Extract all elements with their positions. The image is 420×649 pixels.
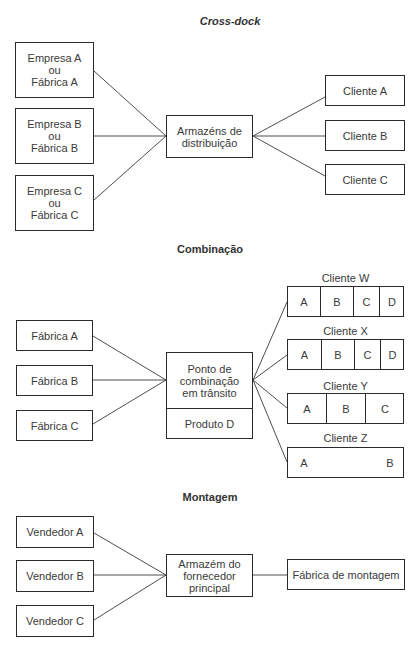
- label: ou: [27, 130, 81, 142]
- source-empresa-a: Empresa AouFábrica A: [15, 42, 94, 98]
- label: combinação: [180, 375, 239, 387]
- cell: A: [294, 448, 314, 477]
- section-title-cross-dock: Cross-dock: [180, 15, 280, 27]
- client-z-shipment: A B: [287, 447, 404, 478]
- cell: D: [380, 287, 404, 316]
- section-title-montagem: Montagem: [160, 491, 260, 503]
- label: Empresa B: [27, 118, 81, 130]
- label: Empresa C: [27, 185, 82, 197]
- cell: C: [354, 287, 380, 316]
- hub-ponto-combinacao: Ponto decombinaçãoem trânsito Produto D: [166, 352, 253, 439]
- label: Cliente B: [343, 130, 388, 142]
- label: Cliente C: [342, 174, 387, 186]
- source-fabrica-b: Fábrica B: [16, 365, 93, 396]
- source-empresa-c: Empresa CouFábrica C: [15, 175, 94, 231]
- client-x-shipment: A B C D: [287, 339, 404, 370]
- hub-armazens-distribuicao: Armazéns dedistribuição: [166, 115, 253, 158]
- label: Fábrica B: [31, 375, 78, 387]
- section-title-combinacao: Combinação: [160, 243, 260, 255]
- label: distribuição: [177, 137, 242, 149]
- source-vendedor-c: Vendedor C: [16, 605, 94, 637]
- label: ou: [27, 197, 82, 209]
- label: ou: [28, 64, 82, 76]
- hub-armazem-fornecedor: Armazém dofornecedorprincipal: [166, 554, 253, 597]
- cell: A: [288, 287, 321, 316]
- label: Ponto de: [180, 363, 239, 375]
- label: Armazém do: [178, 558, 240, 570]
- label: Vendedor C: [26, 615, 84, 627]
- label: Fábrica C: [27, 209, 82, 221]
- client-c: Cliente C: [325, 164, 405, 195]
- label: Armazéns de: [177, 125, 242, 137]
- label: Fábrica C: [31, 420, 79, 432]
- label: em trânsito: [180, 387, 239, 399]
- source-fabrica-a: Fábrica A: [16, 320, 93, 351]
- cell: D: [381, 340, 404, 369]
- client-a: Cliente A: [325, 75, 405, 106]
- cell: B: [321, 287, 354, 316]
- cell: B: [322, 340, 355, 369]
- client-y-label: Cliente Y: [287, 380, 404, 392]
- label: fornecedor: [178, 570, 240, 582]
- cell: B: [380, 448, 400, 477]
- client-b: Cliente B: [325, 120, 405, 151]
- client-x-label: Cliente X: [287, 325, 404, 337]
- source-vendedor-b: Vendedor B: [16, 560, 94, 592]
- source-vendedor-a: Vendedor A: [16, 516, 94, 548]
- label: Vendedor A: [27, 526, 84, 538]
- label: Fábrica A: [28, 76, 82, 88]
- label: Fábrica de montagem: [293, 569, 400, 581]
- client-z-label: Cliente Z: [287, 432, 404, 444]
- label: Cliente A: [343, 85, 387, 97]
- client-w-label: Cliente W: [287, 272, 404, 284]
- label: Fábrica A: [31, 330, 77, 342]
- cell: A: [288, 394, 327, 423]
- cell: A: [288, 340, 322, 369]
- produto-d-label: Produto D: [185, 418, 235, 430]
- source-fabrica-c: Fábrica C: [16, 410, 93, 441]
- label: Fábrica B: [27, 142, 81, 154]
- label: principal: [178, 582, 240, 594]
- cell: C: [355, 340, 381, 369]
- label: Empresa A: [28, 52, 82, 64]
- label: Vendedor B: [26, 570, 84, 582]
- client-w-shipment: A B C D: [287, 286, 404, 317]
- cell: B: [327, 394, 366, 423]
- source-empresa-b: Empresa BouFábrica B: [15, 108, 94, 164]
- destination-fabrica-montagem: Fábrica de montagem: [287, 559, 405, 590]
- cell: C: [366, 394, 404, 423]
- client-y-shipment: A B C: [287, 393, 404, 424]
